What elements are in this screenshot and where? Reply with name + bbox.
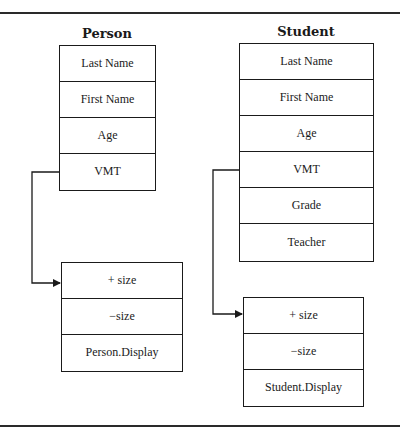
person-vmt-entry-plus-size: + size bbox=[62, 263, 182, 299]
person-vmt-entry-display: Person.Display bbox=[62, 335, 182, 370]
student-field-first-name: First Name bbox=[240, 80, 373, 116]
student-field-grade: Grade bbox=[240, 188, 373, 224]
person-field-last-name: Last Name bbox=[60, 46, 155, 82]
person-title: Person bbox=[59, 26, 155, 41]
person-field-vmt: VMT bbox=[60, 154, 155, 189]
student-field-teacher: Teacher bbox=[240, 224, 373, 260]
person-vmt-entry-minus-size: −size bbox=[62, 299, 182, 335]
person-field-first-name: First Name bbox=[60, 82, 155, 118]
top-rule bbox=[0, 12, 400, 14]
student-vmt-entry-display: Student.Display bbox=[244, 370, 363, 405]
person-vmt-arrow bbox=[32, 172, 60, 283]
student-record: Last Name First Name Age VMT Grade Teach… bbox=[239, 43, 374, 262]
student-vmt-entry-plus-size: + size bbox=[244, 298, 363, 334]
student-vmt-table: + size −size Student.Display bbox=[243, 297, 364, 407]
bottom-rule bbox=[0, 425, 400, 427]
person-field-age: Age bbox=[60, 118, 155, 154]
student-title: Student bbox=[239, 24, 373, 39]
person-record: Last Name First Name Age VMT bbox=[59, 45, 156, 191]
student-field-vmt: VMT bbox=[240, 152, 373, 188]
student-vmt-arrow bbox=[213, 170, 242, 314]
student-field-last-name: Last Name bbox=[240, 44, 373, 80]
person-vmt-table: + size −size Person.Display bbox=[61, 262, 183, 372]
student-field-age: Age bbox=[240, 116, 373, 152]
student-vmt-entry-minus-size: −size bbox=[244, 334, 363, 370]
